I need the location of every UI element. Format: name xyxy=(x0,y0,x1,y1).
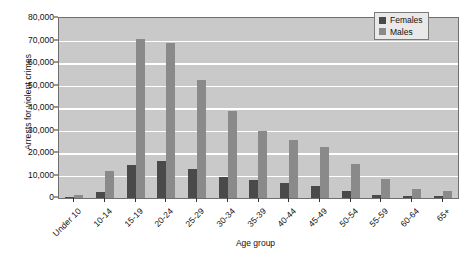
x-axis-tick-mark xyxy=(258,198,259,202)
bar-males xyxy=(258,131,267,199)
x-axis-tick-label: 25-29 xyxy=(183,206,206,229)
legend-label: Females xyxy=(390,16,423,25)
bar-males xyxy=(443,191,452,198)
bar-chart: Arrests for violent crimes 80,00070,0006… xyxy=(0,0,471,259)
x-axis-tick-mark xyxy=(411,198,412,202)
x-axis-tick-label: 45-49 xyxy=(306,206,329,229)
y-axis-tick-label: 40,000 xyxy=(28,102,54,112)
y-axis-tick-label: 20,000 xyxy=(28,147,54,157)
bar-males xyxy=(412,189,421,198)
bar-males xyxy=(289,140,298,199)
bar-males xyxy=(351,164,360,198)
bar-group xyxy=(366,18,397,198)
legend-item: Females xyxy=(379,16,423,25)
x-axis-tick-label: 30-34 xyxy=(214,206,237,229)
bar-group xyxy=(335,18,366,198)
bar-females xyxy=(188,169,197,198)
x-axis-tick-mark xyxy=(380,198,381,202)
bar-group xyxy=(274,18,305,198)
x-axis-title: Age group xyxy=(0,238,471,248)
y-axis-tick-label: 50,000 xyxy=(28,80,54,90)
x-axis-tick-mark xyxy=(350,198,351,202)
legend-swatch-icon xyxy=(379,28,386,35)
bar-males xyxy=(136,39,145,198)
bar-group xyxy=(90,18,121,198)
x-axis-tick-mark xyxy=(135,198,136,202)
bar-males xyxy=(166,43,175,198)
bar-group xyxy=(397,18,428,198)
y-axis-tick-label: 30,000 xyxy=(28,125,54,135)
x-axis-tick-label: 55-59 xyxy=(368,206,391,229)
bar-group xyxy=(243,18,274,198)
x-axis-tick-mark xyxy=(165,198,166,202)
x-axis-tick-mark xyxy=(319,198,320,202)
x-axis-tick-label: 20-24 xyxy=(153,206,176,229)
bar-group xyxy=(120,18,151,198)
bar-males xyxy=(381,179,390,198)
legend-label: Males xyxy=(390,28,413,37)
bar-males xyxy=(197,80,206,198)
bar-group xyxy=(151,18,182,198)
x-axis-tick-label: 40-44 xyxy=(275,206,298,229)
bar-females xyxy=(127,165,136,198)
x-axis-tick-label: 35-39 xyxy=(245,206,268,229)
x-axis-tick-mark xyxy=(104,198,105,202)
y-axis-tick-label: 70,000 xyxy=(28,35,54,45)
legend-item: Males xyxy=(379,28,423,37)
x-axis-tick-mark xyxy=(288,198,289,202)
bar-males xyxy=(228,111,237,198)
x-axis-tick-label: 60-64 xyxy=(398,206,421,229)
bar-group xyxy=(59,18,90,198)
chart-legend: FemalesMales xyxy=(374,12,429,40)
x-axis-tick-label: 10-14 xyxy=(91,206,114,229)
bar-group xyxy=(427,18,458,198)
bar-males xyxy=(105,171,114,198)
y-axis-tick-label: 80,000 xyxy=(28,12,54,22)
y-axis-tick-group: 80,00070,00060,00050,00040,00030,00020,0… xyxy=(16,0,58,259)
y-axis-tick-label: 10,000 xyxy=(28,170,54,180)
bar-females xyxy=(219,177,228,198)
x-axis-tick-mark xyxy=(442,198,443,202)
x-axis-tick-label: 15-19 xyxy=(122,206,145,229)
x-axis-tick-mark xyxy=(227,198,228,202)
bar-females xyxy=(311,186,320,198)
x-axis-tick-mark xyxy=(73,198,74,202)
plot-area xyxy=(58,17,459,199)
bar-group xyxy=(212,18,243,198)
bars-layer xyxy=(59,18,458,198)
bar-females xyxy=(157,161,166,198)
legend-swatch-icon xyxy=(379,17,386,24)
x-axis-tick-label: 50-54 xyxy=(337,206,360,229)
bar-males xyxy=(320,147,329,198)
x-axis-tick-mark xyxy=(196,198,197,202)
bar-group xyxy=(182,18,213,198)
x-axis-tick-label: 65+ xyxy=(434,206,451,223)
bar-females xyxy=(342,191,351,198)
bar-group xyxy=(305,18,336,198)
bar-females xyxy=(280,183,289,198)
y-axis-tick-label: 60,000 xyxy=(28,57,54,67)
bar-females xyxy=(249,180,258,198)
